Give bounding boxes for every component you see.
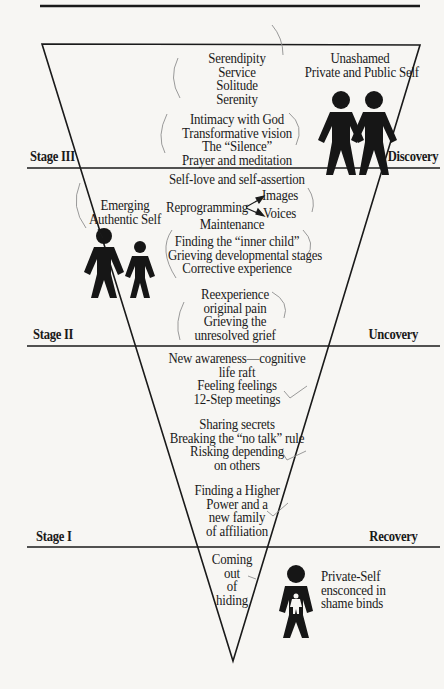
text-line: Service [186,66,287,80]
stage2-reprogramming: Reprogramming [166,201,240,215]
text-line: New awareness—cognitive [168,352,306,366]
phase-label-recovery: Recovery [370,529,418,545]
text-line: life raft [168,366,306,380]
text-line: The “Silence” [173,140,302,154]
text-line: Solitude [186,79,287,93]
text-line: hiding [204,594,259,608]
stage3-group-serendipity: Serendipity Service Solitude Serenity [186,52,287,106]
text-line: Corrective experience [168,262,306,276]
text-line: 12-Step meetings [168,393,306,407]
phase-label-uncovery: Uncovery [368,327,418,343]
text-line: out [204,567,259,581]
figure-two-adults-icon [318,91,397,175]
text-line: Finding the “inner child” [168,235,306,249]
text-line: unresolved grief [184,329,285,343]
stage1-group-sharing: Sharing secrets Breaking the “no talk” r… [168,418,306,472]
text-line: Finding a Higher [186,484,287,498]
text-line: Grieving the [184,315,285,329]
stage-label-3: Stage III [30,149,75,165]
text-line: Reexperience [184,288,285,302]
text-line: of [204,580,259,594]
text-line: Sharing secrets [168,418,306,432]
text-line: Prayer and meditation [173,154,302,168]
bottom-coming-out-of-hiding: Coming out of hiding [204,553,259,607]
stage3-group-intimacy: Intimacy with God Transformative vision … [173,113,302,167]
text-line: Serenity [186,93,287,107]
text-line: Private-Self [321,570,404,584]
stage-label-1: Stage I [36,529,72,545]
text-line: Risking depending [168,445,306,459]
caption-emerging-self: Emerging Authentic Self [84,199,167,226]
text-line: Authentic Self [84,213,167,227]
text-line: Feeling feelings [168,379,306,393]
text-line: Grieving developmental stages [168,249,306,263]
stage2-maintenance: Maintenance [193,218,270,232]
stage2-images: Images [262,189,302,203]
text-line: Coming [204,553,259,567]
caption-private-self: Private-Self ensconced in shame binds [321,570,404,611]
text-line: Emerging [84,199,167,213]
text-line: Intimacy with God [173,113,302,127]
stage2-group-reexperience: Reexperience original pain Grieving the … [184,288,285,342]
stage1-group-awareness: New awareness—cognitive life raft Feelin… [168,352,306,406]
text-line: Transformative vision [173,127,302,141]
stage2-group-inner-child: Finding the “inner child” Grieving devel… [168,235,306,276]
text-line: of affiliation [186,525,287,539]
figure-adult-and-child-icon [84,228,155,298]
figure-private-self-icon [279,565,313,638]
phase-label-discovery: Discovery [387,149,438,165]
text-line: on others [168,459,306,473]
text-line: Breaking the “no talk” rule [168,432,306,446]
text-line: Serendipity [186,52,287,66]
text-line: original pain [184,302,285,316]
text-line: new family [186,511,287,525]
text-line: ensconced in [321,584,404,598]
stage2-self-love: Self-love and self-assertion [168,173,306,187]
text-line: Private and Public Self [305,66,415,80]
caption-unashamed-self: Unashamed Private and Public Self [305,52,415,79]
stage-label-2: Stage II [33,327,73,343]
text-line: Unashamed [305,52,415,66]
stage1-group-higher-power: Finding a Higher Power and a new family … [186,484,287,538]
text-line: Power and a [186,498,287,512]
text-line: shame binds [321,597,404,611]
